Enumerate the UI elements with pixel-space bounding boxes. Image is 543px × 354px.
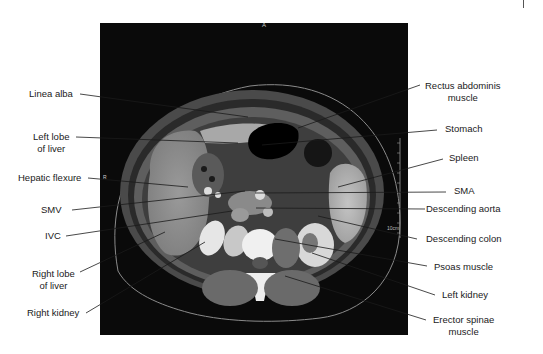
right-orientation-marker: R (103, 174, 107, 180)
label-erector-spinae-muscle: Erector spinae muscle (433, 314, 494, 338)
label-linea-alba: Linea alba (29, 88, 73, 100)
anterior-orientation-marker: A (262, 22, 266, 28)
label-descending-aorta: Descending aorta (426, 203, 500, 215)
label-left-kidney: Left kidney (442, 289, 488, 301)
label-spleen: Spleen (449, 152, 479, 164)
page-corner-mark (523, 0, 524, 8)
label-psoas-muscle: Psoas muscle (434, 261, 493, 273)
label-hepatic-flexure: Hepatic flexure (18, 172, 81, 184)
label-right-lobe-of-liver: Right lobe of liver (32, 268, 75, 292)
ct-scan-drawing (100, 23, 408, 335)
scale-label: 10cm (387, 225, 399, 231)
label-sma: SMA (454, 185, 475, 197)
label-right-kidney: Right kidney (27, 307, 79, 319)
label-smv: SMV (41, 204, 62, 216)
label-left-lobe-of-liver: Left lobe of liver (33, 131, 69, 155)
label-stomach: Stomach (445, 123, 483, 135)
label-descending-colon: Descending colon (426, 233, 502, 245)
label-ivc: IVC (45, 230, 61, 242)
anatomy-figure: A R 10cm Linea alba Left lobe (0, 0, 543, 354)
label-rectus-abdominis-muscle: Rectus abdominis muscle (425, 80, 501, 104)
ct-scan-image (100, 23, 408, 335)
